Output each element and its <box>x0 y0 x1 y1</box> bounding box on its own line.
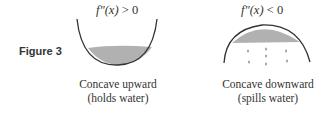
concave-up-caption: Concave upward (holds water) <box>78 77 158 105</box>
caption-note: (holds water) <box>78 91 158 105</box>
concave-down-caption: Concave downward (spills water) <box>218 77 318 105</box>
caption-title: Concave downward <box>218 77 318 91</box>
caption-note: (spills water) <box>218 91 318 105</box>
caption-title: Concave upward <box>78 77 158 91</box>
concave-down-arch <box>224 25 310 66</box>
concave-up-cup <box>77 19 157 65</box>
water-drops <box>247 47 288 65</box>
